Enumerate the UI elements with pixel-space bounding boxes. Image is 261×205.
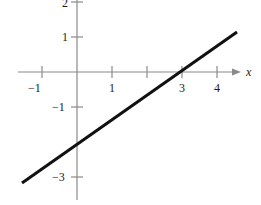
x-tick-label-3: 3 — [179, 82, 185, 94]
y-tick-label-neg1: −1 — [52, 101, 65, 113]
y-tick-label-neg3: −3 — [52, 171, 65, 183]
graph-figure: −1 1 3 4 2 1 −1 −3 x — [0, 0, 261, 205]
y-tick-label-2: 2 — [62, 0, 68, 9]
x-tick-label-neg1: −1 — [28, 82, 41, 94]
x-axis-label: x — [246, 66, 251, 78]
x-tick-label-4: 4 — [214, 82, 220, 94]
y-tick-label-1: 1 — [62, 31, 68, 43]
x-tick-label-1: 1 — [109, 82, 115, 94]
coordinate-plane — [0, 0, 261, 205]
x-axis-arrowhead — [232, 68, 241, 75]
